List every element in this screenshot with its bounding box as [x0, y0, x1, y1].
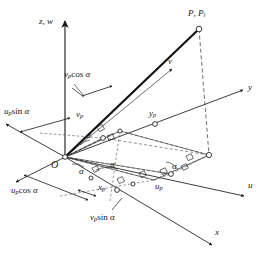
node-P: [196, 26, 202, 32]
node-up: [169, 172, 174, 177]
axis-label-v: v: [168, 57, 172, 66]
projection-label-up: up: [155, 182, 163, 192]
axis-label-u: u: [248, 181, 253, 190]
axis-label-x: x: [215, 228, 219, 237]
angle-arcs: [72, 140, 178, 170]
point-label-origin: O: [51, 160, 58, 170]
axis-label-z: z, w: [39, 17, 53, 26]
node-mid-lower: [131, 182, 135, 186]
component-label-up-cos-alpha: upcos α: [11, 186, 38, 196]
node-vp: [101, 136, 106, 141]
angle-label-alpha-1: α: [86, 131, 91, 140]
node-mid-left: [89, 176, 93, 180]
component-label-vp-cos-alpha: vpcos α: [64, 70, 90, 80]
node-base-corner: [206, 152, 211, 157]
right-angle-markers: [92, 125, 193, 184]
axis-u-negative: [6, 124, 65, 157]
measure-vp-cos-alpha: [72, 86, 112, 97]
diagram-canvas: [0, 0, 276, 264]
node-yp: [153, 122, 158, 127]
figure-container: z, w y v u x O P, Pl vpcos α upsin α upc…: [0, 0, 276, 264]
projection-label-yp: yp: [149, 109, 156, 119]
projection-label-vp: vp: [76, 110, 83, 120]
node-corner-top: [118, 129, 122, 133]
drop-line-P: [199, 29, 209, 155]
node-xp: [115, 188, 120, 193]
leader-vp-cos-alpha: [74, 84, 84, 96]
point-label-P: P, Pl: [188, 9, 205, 19]
angle-label-alpha-3: α: [79, 167, 84, 176]
angle-label-alpha-2: α: [110, 160, 115, 169]
axis-x: [65, 157, 212, 245]
component-label-up-sin-alpha: upsin α: [4, 107, 29, 117]
node-origin: [63, 155, 68, 160]
node-markers: [63, 26, 212, 192]
projection-label-xp: xp: [98, 183, 105, 193]
measure-vp-sin-alpha: [78, 190, 122, 210]
component-label-vp-sin-alpha: vpsin α: [90, 213, 115, 223]
axis-label-y: y: [248, 83, 252, 92]
angle-label-alpha-4: α: [172, 162, 177, 171]
measure-up-sin-alpha: [20, 118, 70, 132]
